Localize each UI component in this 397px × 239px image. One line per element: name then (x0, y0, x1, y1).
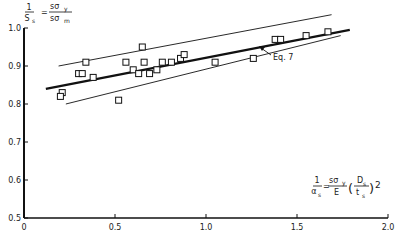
data-point-square (123, 59, 129, 65)
y-tick-label: 0.5 (8, 214, 21, 223)
data-point-square (181, 52, 187, 58)
data-point-square (278, 36, 284, 42)
y-tick-label: 0.7 (8, 138, 21, 147)
xlabel-pden-sub: s (362, 192, 365, 199)
xlabel-lhs-num: 1 (314, 176, 319, 185)
data-point-square (136, 71, 142, 77)
xlabel-lhs-den: α (311, 187, 316, 196)
data-point-square (154, 67, 160, 73)
x-tick-label: 0 (21, 223, 26, 232)
x-tick-label: 1.0 (200, 223, 213, 232)
axes: 0.50.60.70.80.91.000.51.01.52.0 (8, 24, 394, 232)
eq7-annotation: Eq. 7 (273, 53, 293, 62)
data-point-square (250, 55, 256, 61)
x-tick-label: 1.5 (291, 223, 304, 232)
y-tick-label: 0.8 (8, 100, 21, 109)
data-point-square (159, 59, 165, 65)
data-point-square (325, 29, 331, 35)
ylabel-eq: = (41, 8, 48, 17)
y-tick-label: 0.6 (8, 176, 21, 185)
data-point-square (168, 59, 174, 65)
x-tick-label: 0.5 (109, 223, 122, 232)
data-point-square (90, 74, 96, 80)
data-point-square (141, 59, 147, 65)
xlabel-pden: t (356, 188, 359, 197)
data-point-square (83, 59, 89, 65)
data-point-square (116, 97, 122, 103)
data-points (57, 29, 331, 103)
ylabel-den-sub: m (64, 17, 70, 24)
ylabel-lhs-den: S (24, 14, 29, 23)
data-point-square (57, 93, 63, 99)
ylabel-lhs-sub: s (32, 17, 35, 24)
xlabel-lhs-sub: s (318, 191, 321, 198)
ylabel-den: sσ (50, 14, 59, 23)
scatter-chart: 0.50.60.70.80.91.000.51.01.52.0 1Ss=sσys… (0, 0, 397, 239)
lower-bound-line (66, 36, 341, 104)
data-point-square (212, 59, 218, 65)
y-tick-label: 0.9 (8, 62, 21, 71)
data-point-square (139, 44, 145, 50)
xlabel-num: sσ (329, 176, 338, 185)
ylabel-num: sσ (50, 2, 59, 11)
data-point-square (147, 71, 153, 77)
xlabel-paren-open: ( (348, 181, 353, 196)
y-tick-label: 1.0 (8, 24, 21, 33)
xlabel-exp: 2 (375, 180, 381, 190)
xlabel-paren-close: ) (369, 181, 374, 196)
x-tick-label: 2.0 (382, 223, 395, 232)
fit-lines (46, 15, 350, 104)
xlabel-den: E (334, 188, 339, 197)
data-point-square (79, 71, 85, 77)
data-point-square (303, 33, 309, 39)
ylabel-lhs-num: 1 (26, 3, 31, 12)
